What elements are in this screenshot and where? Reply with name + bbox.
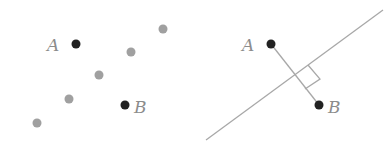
point-a (267, 40, 276, 49)
diagram-canvas: A B A B (0, 0, 391, 151)
gray-point (33, 119, 42, 128)
gray-point (65, 95, 74, 104)
separating-line (206, 10, 383, 140)
right-panel: A B (206, 10, 383, 140)
point-b (315, 101, 324, 110)
gray-point (95, 71, 104, 80)
label-a: A (45, 35, 59, 55)
label-a: A (240, 35, 254, 55)
point-b (121, 101, 130, 110)
label-b: B (327, 97, 341, 117)
segment-ab (271, 44, 319, 105)
point-a (72, 40, 81, 49)
left-panel: A B (33, 25, 168, 128)
label-b: B (133, 97, 147, 117)
gray-point (127, 48, 136, 57)
right-angle-marker (305, 65, 320, 89)
gray-point (159, 25, 168, 34)
